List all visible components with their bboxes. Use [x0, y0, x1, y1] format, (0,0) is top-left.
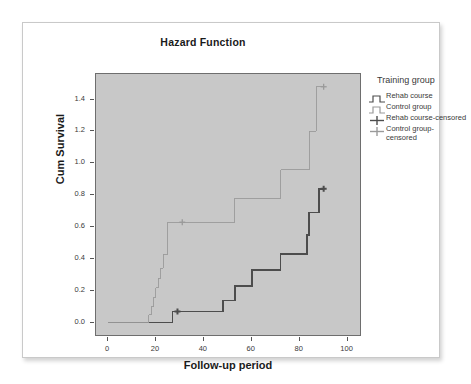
censored-marker: [179, 219, 185, 225]
legend-item-label: Control group- censored: [386, 123, 434, 142]
y-tick-mark: [90, 290, 94, 291]
y-tick-label: 0.2: [55, 285, 85, 294]
series-line: [108, 87, 324, 323]
x-tick-label: 40: [190, 344, 216, 353]
y-tick-mark: [90, 258, 94, 259]
legend-item-label: Control group: [386, 101, 431, 111]
plot-area: [95, 73, 361, 336]
legend-item-label: Rehab course-censored: [386, 112, 466, 122]
y-tick-label: 0.6: [55, 221, 85, 230]
x-tick-label: 20: [142, 344, 168, 353]
y-tick-label: 0.0: [55, 317, 85, 326]
y-tick-label: 0.4: [55, 253, 85, 262]
x-tick-mark: [299, 337, 300, 341]
y-tick-mark: [90, 322, 94, 323]
y-tick-mark: [90, 130, 94, 131]
legend-rows: Rehab courseControl groupRehab course-ce…: [368, 90, 471, 142]
y-tick-label: 1.2: [55, 125, 85, 134]
y-tick-label: 0.8: [55, 189, 85, 198]
y-tick-mark: [90, 99, 94, 100]
legend-item: Rehab course: [368, 90, 471, 101]
x-tick-mark: [203, 337, 204, 341]
x-axis-title: Follow-up period: [95, 359, 361, 371]
y-tick-mark: [90, 194, 94, 195]
legend-title: Training group: [377, 75, 471, 85]
plus-marker-icon: [368, 112, 386, 123]
page-title: Hazard Function: [23, 36, 383, 48]
series-line: [108, 189, 324, 323]
censored-marker: [174, 308, 180, 314]
censored-marker: [321, 186, 327, 192]
legend-item: Control group: [368, 101, 471, 112]
legend: Training group Rehab courseControl group…: [368, 75, 471, 142]
x-tick-mark: [155, 337, 156, 341]
x-tick-label: 0: [94, 344, 120, 353]
x-tick-label: 60: [238, 344, 264, 353]
plot-svg: [96, 74, 362, 337]
x-tick-label: 80: [286, 344, 312, 353]
x-tick-mark: [107, 337, 108, 341]
step-line-icon: [368, 101, 386, 112]
x-tick-mark: [251, 337, 252, 341]
plus-marker-icon: [368, 123, 386, 134]
censored-marker: [321, 84, 327, 90]
legend-item: Control group- censored: [368, 123, 471, 142]
y-tick-label: 1.4: [55, 94, 85, 103]
y-tick-mark: [90, 162, 94, 163]
y-tick-label: 1.0: [55, 157, 85, 166]
legend-item: Rehab course-censored: [368, 112, 471, 123]
legend-item-label: Rehab course: [386, 90, 433, 100]
y-tick-mark: [90, 226, 94, 227]
x-tick-label: 100: [334, 344, 360, 353]
x-tick-mark: [347, 337, 348, 341]
step-line-icon: [368, 90, 386, 101]
chart-card: Hazard Function Cum Survival Follow-up p…: [22, 22, 440, 358]
